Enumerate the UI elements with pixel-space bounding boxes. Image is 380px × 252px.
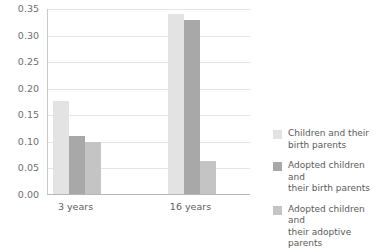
y-axis-tick-label: 0.05 xyxy=(18,163,39,173)
y-axis-tick-label: 0.10 xyxy=(18,137,39,147)
y-axis-tick-label: 0.00 xyxy=(18,190,39,200)
chart-legend: Children and their birth parents Adopted… xyxy=(273,128,380,252)
y-axis-tick-label: 0.30 xyxy=(18,31,39,41)
legend-label: Adopted children and their adoptive pare… xyxy=(288,204,380,250)
legend-item[interactable]: Children and their birth parents xyxy=(273,128,380,151)
legend-swatch-adopted-birth-parents xyxy=(273,162,282,171)
bar xyxy=(85,142,101,194)
bar xyxy=(184,20,200,194)
y-axis-tick-label: 0.20 xyxy=(18,84,39,94)
legend-swatch-children-birth-parents xyxy=(273,130,282,139)
bar xyxy=(69,136,85,194)
bar-chart: 0.000.050.100.150.200.250.300.35 3 years… xyxy=(0,0,380,224)
bar xyxy=(168,14,184,194)
legend-item[interactable]: Adopted children and their adoptive pare… xyxy=(273,204,380,250)
bar xyxy=(200,161,216,194)
legend-label: Children and their birth parents xyxy=(288,128,369,151)
legend-swatch-adopted-adoptive-parents xyxy=(273,206,282,215)
y-axis-tick-labels: 0.000.050.100.150.200.250.300.35 xyxy=(0,9,43,195)
x-axis-category-label: 16 years xyxy=(170,201,211,212)
y-axis-tick-label: 0.15 xyxy=(18,110,39,120)
legend-item[interactable]: Adopted children and their birth parents xyxy=(273,160,380,195)
plot-area xyxy=(47,9,250,195)
x-axis-category-label: 3 years xyxy=(58,201,93,212)
y-axis-tick-label: 0.35 xyxy=(18,4,39,14)
legend-label: Adopted children and their birth parents xyxy=(288,160,380,195)
y-axis-tick-label: 0.25 xyxy=(18,57,39,67)
bars-layer xyxy=(48,9,250,194)
bar xyxy=(53,101,69,194)
